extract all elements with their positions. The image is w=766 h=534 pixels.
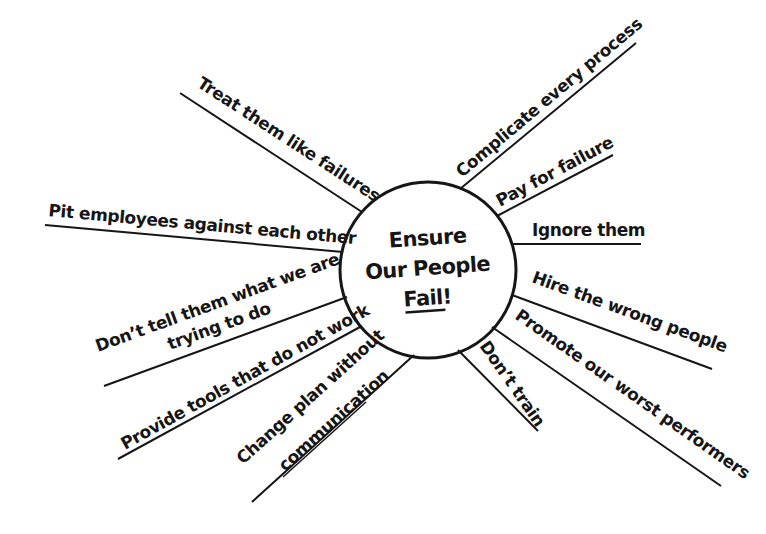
svg-text:Fail!: Fail! [403,284,453,311]
spoke-label-promote: Promote our worst performers [512,305,754,483]
spoke-label-treat: Treat them like failures [194,73,384,206]
spoke-label-ignore: Ignore them [532,220,645,240]
center-title-exclaim: ! [442,284,453,309]
spoke-label-dont-train: Don’t train [476,337,550,430]
spoke-label-pay: Pay for failure [492,132,616,211]
spoke-line-treat [180,93,362,212]
spoke-label-pit: Pit employees against each other [48,200,358,248]
center-title-fail: Fail [403,285,444,312]
mind-map-diagram: Ensure Our People Fail! Treat them like … [0,0,766,534]
spoke-label-complicate: Complicate every process [452,13,646,181]
